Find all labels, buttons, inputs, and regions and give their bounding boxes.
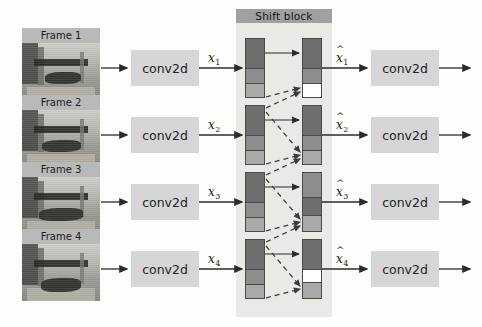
arrow-temporal-shift-backward — [266, 92, 300, 286]
arrow-frame-to-conv — [101, 68, 127, 269]
arrow-shift-to-conv — [322, 68, 367, 269]
arrow-conv-to-shift — [199, 68, 242, 269]
frame-label: Frame 4 — [22, 229, 100, 244]
diagram-canvas: Frame 1 Frame 2 Frame 3 Frame 4 — [0, 0, 482, 327]
frame-label: Frame 1 — [22, 28, 100, 43]
frame-label: Frame 3 — [22, 162, 100, 177]
arrow-conv-output — [439, 68, 470, 269]
frame-label: Frame 2 — [22, 95, 100, 110]
